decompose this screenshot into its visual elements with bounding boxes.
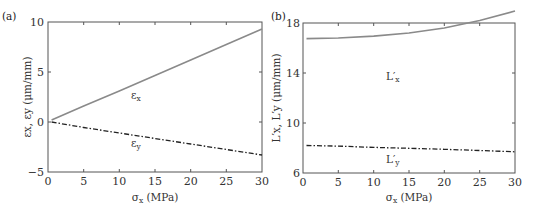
- panel-label-b: (b): [271, 10, 286, 22]
- svg-text:5: 5: [335, 176, 342, 189]
- x-tick-labels-b: 0 5 10 15 20 25 30: [300, 176, 523, 189]
- svg-text:30: 30: [255, 175, 269, 188]
- y-tick-labels-b: 18 14 10 6: [286, 17, 300, 180]
- panel-label-a: (a): [2, 10, 16, 22]
- svg-text:10: 10: [112, 175, 126, 188]
- chart-b: (b) 0 5 10 15 20 25 30 18 14 10 6 L′x, L…: [270, 10, 522, 205]
- svg-text:10: 10: [367, 176, 381, 189]
- y-axis-label-a: εx, εy (μm/mm): [21, 56, 33, 137]
- svg-text:0: 0: [45, 175, 52, 188]
- svg-text:25: 25: [219, 175, 233, 188]
- svg-text:6: 6: [293, 167, 300, 180]
- ticks-b: [303, 23, 515, 173]
- svg-text:0: 0: [300, 176, 307, 189]
- curve-label-Ly-prime: L′y: [386, 153, 400, 167]
- svg-text:30: 30: [508, 176, 522, 189]
- x-axis-label-a: σx (MPa): [132, 191, 179, 205]
- svg-text:20: 20: [184, 175, 198, 188]
- svg-text:18: 18: [286, 17, 300, 30]
- chart-a: (a) 0 5 10 15 20 25 30 10 5 0 −5: [2, 10, 269, 205]
- svg-text:20: 20: [437, 176, 451, 189]
- svg-text:25: 25: [473, 176, 487, 189]
- svg-text:15: 15: [148, 175, 162, 188]
- svg-text:0: 0: [37, 116, 44, 129]
- curve-label-Lx-prime: L′x: [386, 70, 400, 84]
- svg-text:−5: −5: [28, 166, 44, 179]
- svg-text:10: 10: [286, 117, 300, 130]
- curve-label-epsilon-x: εx: [131, 89, 141, 103]
- svg-text:14: 14: [286, 67, 300, 80]
- series-Lx-prime: [307, 11, 516, 39]
- y-axis-label-b: L′x, L′y (μm/mm): [270, 53, 282, 142]
- series-epsilon-x: [52, 29, 262, 120]
- figure: (a) 0 5 10 15 20 25 30 10 5 0 −5: [0, 0, 538, 214]
- x-axis-label-b: σx (MPa): [386, 191, 433, 205]
- series-epsilon-y: [52, 122, 262, 155]
- svg-text:5: 5: [37, 66, 44, 79]
- svg-text:5: 5: [80, 175, 87, 188]
- curve-label-epsilon-y: εy: [131, 137, 141, 151]
- svg-text:10: 10: [30, 16, 44, 29]
- x-tick-labels-a: 0 5 10 15 20 25 30: [45, 175, 270, 188]
- svg-text:15: 15: [402, 176, 416, 189]
- series-Ly-prime: [307, 146, 516, 152]
- axes-frame-b: [303, 23, 515, 173]
